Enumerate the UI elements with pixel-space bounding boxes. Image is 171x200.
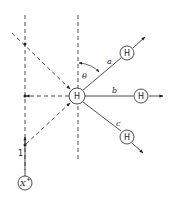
- intersection-dot-middle: [24, 95, 27, 98]
- h-node-a: H: [120, 46, 134, 60]
- intersection-dot-upper: [24, 43, 27, 46]
- h-node-b: H: [134, 89, 148, 103]
- h-node-c: H: [120, 130, 134, 144]
- node-a-label: H: [124, 49, 130, 58]
- projectile-node-label: X: [19, 179, 26, 188]
- projectile-node-superscript: +: [26, 175, 31, 182]
- branch-a-label: a: [107, 57, 112, 66]
- incoming-dashed-path-upper: [12, 33, 70, 89]
- central-node-label: H: [74, 92, 80, 101]
- path-label-1: 1: [18, 149, 23, 158]
- angle-theta-arc: [79, 63, 99, 72]
- branch-b-label: b: [112, 86, 117, 95]
- incoming-dashed-path-lower: [26, 103, 70, 144]
- projectile-x-node: X +: [18, 175, 32, 190]
- node-c-label: H: [124, 133, 130, 142]
- angle-theta-label: θ: [82, 72, 87, 81]
- branch-c-arrow: [132, 143, 143, 153]
- central-h-node: H: [69, 88, 85, 104]
- scattering-diagram: 1 θ a b c H H H H X +: [0, 0, 171, 200]
- branch-c-label: c: [116, 119, 121, 128]
- node-b-label: H: [138, 92, 144, 101]
- branch-a-arrow: [133, 37, 145, 48]
